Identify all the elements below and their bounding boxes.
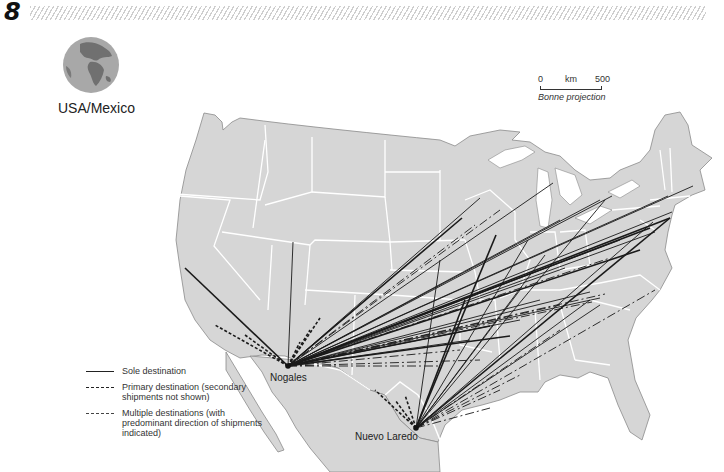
legend-item-multiple: Multiple destinations (with predominant … [86, 408, 276, 438]
nuevo-laredo-dot [413, 425, 419, 431]
map-legend: Sole destination Primary destination (se… [86, 366, 276, 444]
legend-label: Primary destination (secondary shipments… [122, 382, 246, 402]
legend-item-primary: Primary destination (secondary shipments… [86, 382, 276, 402]
solid-line-symbol [86, 371, 114, 372]
long-dash-line-symbol [86, 387, 114, 388]
city-label-nuevo-laredo: Nuevo Laredo [355, 431, 418, 442]
nogales-dot [285, 363, 291, 369]
legend-item-sole: Sole destination [86, 366, 276, 376]
short-dash-line-symbol [86, 413, 114, 414]
legend-label: Sole destination [122, 366, 186, 376]
legend-label: Multiple destinations (with predominant … [122, 408, 262, 438]
